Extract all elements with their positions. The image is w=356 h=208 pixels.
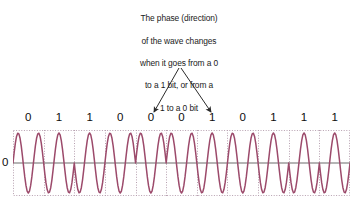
zero-axis-label: 0 (2, 155, 8, 169)
bit-label-row: 01100010111 (13, 110, 350, 126)
bit-label-8: 1 (258, 110, 288, 124)
bit-label-9: 1 (289, 110, 319, 124)
bit-label-1: 1 (44, 110, 74, 124)
bit-label-4: 0 (136, 110, 166, 124)
caption-line-4: to a 1 bit, or from a (112, 80, 246, 91)
waveform-svg (13, 130, 350, 196)
figure-canvas: The phase (direction) of the wave change… (0, 0, 356, 208)
bit-label-3: 0 (105, 110, 135, 124)
bit-label-7: 0 (228, 110, 258, 124)
bit-label-2: 1 (75, 110, 105, 124)
caption-line-2: of the wave changes (112, 36, 246, 47)
caption-line-1: The phase (direction) (112, 13, 246, 24)
bit-label-10: 1 (320, 110, 350, 124)
bit-label-6: 1 (197, 110, 227, 124)
psk-waveform-plot (13, 130, 350, 196)
caption-line-3: when it goes from a 0 (112, 58, 246, 69)
bit-label-5: 0 (167, 110, 197, 124)
annotation-caption: The phase (direction) of the wave change… (112, 2, 246, 125)
bit-label-0: 0 (13, 110, 43, 124)
